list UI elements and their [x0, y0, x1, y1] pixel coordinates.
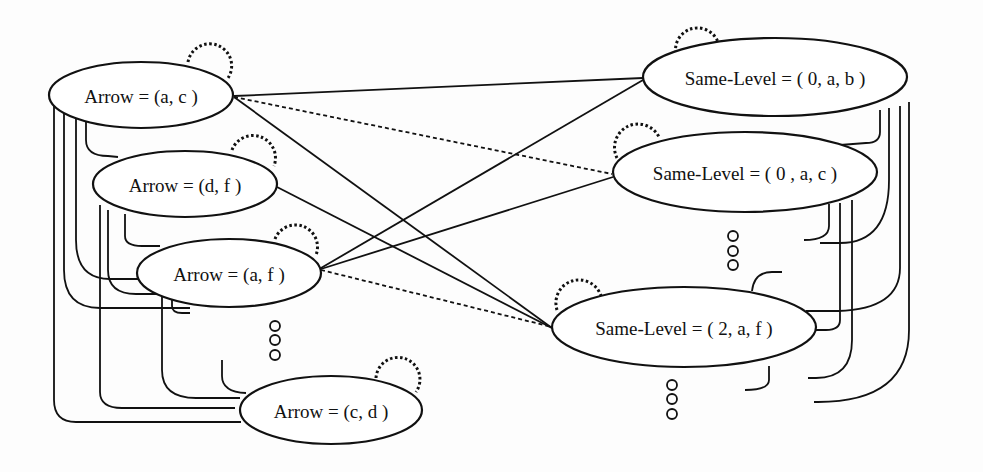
node-label: Same-Level = ( 0, a, b ) [685, 68, 866, 90]
node-label: Arrow = (c, d ) [274, 401, 389, 423]
edge-arrow-af-to-sl-2af [321, 270, 552, 327]
diagram-canvas: Arrow = (a, c ) Arrow = (d, f ) Arrow = … [0, 0, 983, 472]
node-arrow-cd[interactable]: Arrow = (c, d ) [240, 376, 422, 444]
edge-arrow-ac-to-sl-0ac [234, 97, 612, 174]
node-same-level-0ac[interactable]: Same-Level = ( 0 , a, c ) [613, 132, 877, 212]
right-curve-0ac-stub [804, 204, 829, 240]
edge-arrow-ac-to-sl-0ab [234, 78, 643, 96]
graph-svg: Arrow = (a, c ) Arrow = (d, f ) Arrow = … [0, 0, 983, 472]
node-arrow-df[interactable]: Arrow = (d, f ) [93, 151, 277, 217]
edge-arrow-af-to-sl-0ab [321, 80, 643, 268]
edge-arrow-af-to-sl-0ac [321, 177, 613, 269]
node-same-level-2af[interactable]: Same-Level = ( 2, a, f ) [552, 287, 816, 367]
left-curve-df-to-af [125, 214, 160, 246]
edge-arrow-df-to-sl-2af [277, 187, 552, 328]
node-label: Arrow = (a, c ) [84, 86, 198, 108]
ellipsis-right-bottom-icon [667, 380, 677, 419]
right-curve-2af-top-stub [752, 272, 782, 291]
node-arrow-ac[interactable]: Arrow = (a, c ) [49, 62, 233, 128]
right-curve-0ab-to-0ac [840, 110, 880, 145]
node-label: Arrow = (a, f ) [173, 264, 284, 286]
ellipsis-right-middle-icon [728, 231, 738, 270]
node-label: Same-Level = ( 2, a, f ) [595, 318, 772, 340]
node-label: Same-Level = ( 0 , a, c ) [653, 163, 837, 185]
left-curve-cd-top-stub [222, 360, 246, 393]
node-arrow-af[interactable]: Arrow = (a, f ) [137, 239, 321, 307]
ellipsis-left-icon [270, 321, 280, 360]
right-curve-0ac-stub-2 [808, 200, 852, 378]
node-same-level-0ab[interactable]: Same-Level = ( 0, a, b ) [643, 38, 907, 116]
right-curve-2af-bottom-stub [745, 366, 769, 390]
node-label: Arrow = (d, f ) [129, 175, 242, 197]
